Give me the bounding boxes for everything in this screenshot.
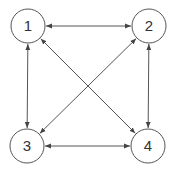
graph-diagram: 1234 [0,0,175,169]
edge-2-4 [148,44,149,128]
node-2: 2 [132,9,166,43]
node-label: 1 [24,17,32,34]
node-label: 3 [23,137,31,154]
graph-svg: 1234 [0,0,175,169]
node-label: 4 [144,137,152,154]
node-3: 3 [10,129,44,163]
node-4: 4 [131,129,165,163]
edge-1-3 [27,44,28,128]
node-label: 2 [145,17,153,34]
node-1: 1 [11,9,45,43]
edges [27,26,149,146]
